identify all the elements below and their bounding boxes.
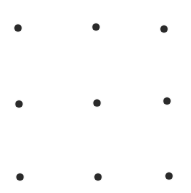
grid-dot[interactable]: [161, 26, 168, 33]
grid-dot[interactable]: [95, 174, 102, 181]
grid-dot[interactable]: [16, 101, 23, 108]
grid-dot[interactable]: [164, 98, 171, 105]
grid-dot[interactable]: [94, 100, 101, 107]
grid-dot[interactable]: [166, 173, 173, 180]
dot-grid: [0, 0, 191, 193]
grid-dot[interactable]: [93, 24, 100, 31]
grid-dot[interactable]: [15, 25, 22, 32]
grid-dot[interactable]: [17, 174, 24, 181]
